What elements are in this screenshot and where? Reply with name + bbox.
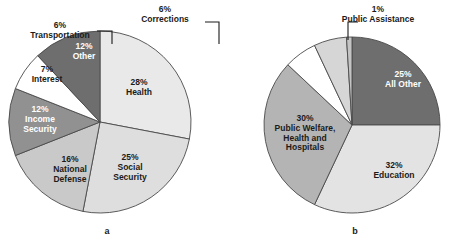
label-line: Income [25, 114, 55, 124]
label-line: Security [113, 172, 147, 182]
label-line: 12% [31, 104, 48, 114]
label-line: Social [117, 162, 142, 172]
label-line: Security [23, 124, 57, 134]
label-line: Hospitals [286, 142, 325, 152]
label-line: Education [373, 170, 414, 180]
label-line: 30% [296, 113, 313, 123]
caption-b: b [352, 226, 358, 236]
label-line: 6% [159, 4, 172, 14]
label-line: 7% [41, 64, 54, 74]
pie-label-b-corrections: 6%Corrections [141, 4, 189, 24]
caption-a: a [104, 226, 110, 236]
label-line: 25% [121, 152, 138, 162]
leader-line-corrections [205, 22, 219, 44]
pie-label-b-transportation: 6%Transportation [30, 20, 90, 40]
label-line: 1% [372, 4, 385, 14]
label-line: 32% [385, 160, 402, 170]
label-line: Other [73, 51, 96, 61]
label-line: 16% [61, 154, 78, 164]
two-pie-chart-figure: 28%Health25%SocialSecurity16%NationalDef… [0, 0, 464, 245]
label-line: 28% [130, 77, 147, 87]
label-line: 12% [75, 41, 92, 51]
label-line: Transportation [30, 30, 90, 40]
label-line: All Other [385, 79, 422, 89]
label-line: Public Welfare, [275, 123, 336, 133]
label-line: 25% [394, 69, 411, 79]
label-line: Interest [32, 74, 63, 84]
label-line: Health and [283, 133, 326, 143]
label-line: Defense [53, 174, 86, 184]
label-line: National [53, 164, 87, 174]
pie-label-b-public-assistance: 1%Public Assistance [342, 4, 415, 24]
label-line: Health [126, 87, 152, 97]
label-line: 6% [54, 20, 67, 30]
label-line: Corrections [141, 14, 189, 24]
